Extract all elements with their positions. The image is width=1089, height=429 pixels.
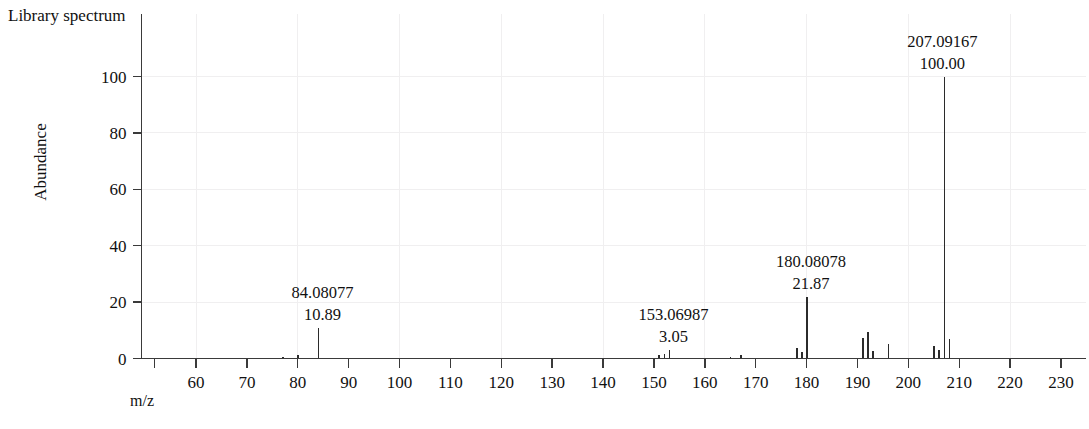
peak-mz-label: 180.08078 xyxy=(776,252,846,271)
x-tick-label: 80 xyxy=(289,373,306,392)
peak-mz-label: 207.09167 xyxy=(907,32,977,51)
peak-mz-label: 84.08077 xyxy=(292,283,354,302)
x-tick-label: 140 xyxy=(590,373,616,392)
y-tick-label: 60 xyxy=(110,180,127,199)
y-tick-label: 80 xyxy=(110,124,127,143)
x-tick-label: 90 xyxy=(340,373,357,392)
spectrum-plot-area: 6070809010011012013014015016017018019020… xyxy=(0,0,1089,429)
peak-series xyxy=(283,77,950,359)
peak-annotations: 84.0807710.89153.069873.05180.0807821.87… xyxy=(292,32,978,346)
y-tick-label: 0 xyxy=(118,350,127,369)
peak-mz-label: 153.06987 xyxy=(638,305,708,324)
x-tick-label: 110 xyxy=(438,373,463,392)
y-axis-ticks: 020406080100 xyxy=(101,68,142,369)
x-tick-label: 230 xyxy=(1048,373,1074,392)
x-tick-label: 150 xyxy=(641,373,667,392)
peak-abundance-label: 100.00 xyxy=(920,54,965,73)
x-tick-label: 160 xyxy=(692,373,718,392)
x-tick-label: 170 xyxy=(743,373,769,392)
x-tick-label: 220 xyxy=(997,373,1023,392)
x-tick-label: 130 xyxy=(539,373,565,392)
x-tick-label: 200 xyxy=(896,373,922,392)
x-tick-label: 70 xyxy=(238,373,255,392)
y-tick-label: 40 xyxy=(110,237,127,256)
x-axis-ticks: 6070809010011012013014015016017018019020… xyxy=(155,359,1074,392)
peak-abundance-label: 21.87 xyxy=(792,274,829,293)
y-tick-label: 20 xyxy=(110,293,127,312)
peak-abundance-label: 3.05 xyxy=(659,327,688,346)
mass-spectrum-figure: Library spectrum Abundance m/z 607080901… xyxy=(0,0,1089,429)
x-tick-label: 180 xyxy=(794,373,820,392)
peak-abundance-label: 10.89 xyxy=(304,305,341,324)
x-tick-label: 190 xyxy=(845,373,871,392)
x-tick-label: 100 xyxy=(387,373,413,392)
x-tick-label: 60 xyxy=(188,373,205,392)
x-tick-label: 120 xyxy=(489,373,515,392)
y-tick-label: 100 xyxy=(101,68,127,87)
x-tick-label: 210 xyxy=(946,373,972,392)
